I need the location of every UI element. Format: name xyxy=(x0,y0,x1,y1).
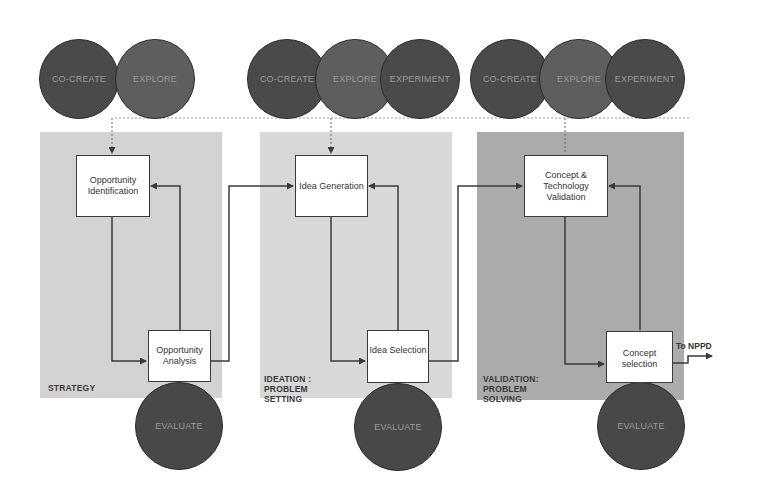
idea-generation-box: Idea Generation xyxy=(295,155,368,217)
opportunity-analysis-box: Opportunity Analysis xyxy=(148,330,211,382)
to-nppd-label: To NPPD xyxy=(676,341,712,351)
concept-technology-validation-box: Concept & Technology Validation xyxy=(524,155,608,217)
experiment-circle: EXPERIMENT xyxy=(380,39,460,119)
opportunity-identification-box: Opportunity Identification xyxy=(76,155,150,217)
evaluate-circle: EVALUATE xyxy=(597,382,685,470)
co-create-circle: CO-CREATE xyxy=(470,39,550,119)
experiment-circle: EXPERIMENT xyxy=(605,39,685,119)
idea-selection-box: Idea Selection xyxy=(367,330,429,383)
evaluate-circle: EVALUATE xyxy=(354,383,442,471)
explore-circle: EXPLORE xyxy=(115,39,195,119)
co-create-circle: CO-CREATE xyxy=(39,39,119,119)
evaluate-circle: EVALUATE xyxy=(135,382,223,470)
concept-selection-box: Concept selection xyxy=(606,331,673,383)
